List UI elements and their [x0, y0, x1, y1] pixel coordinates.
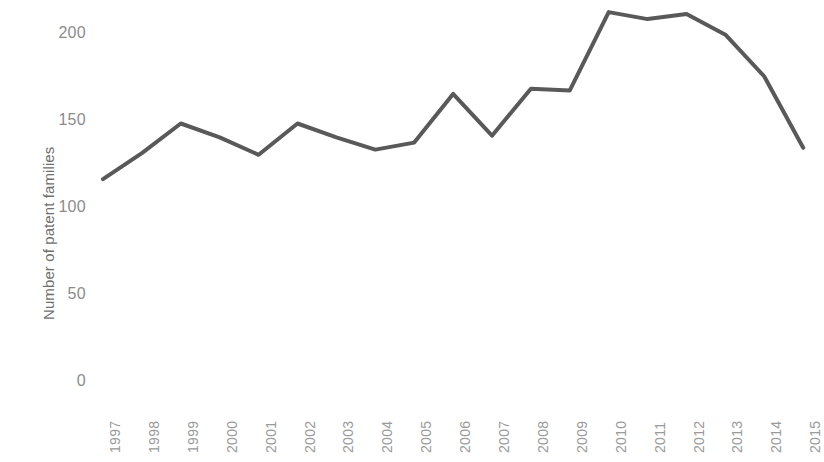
x-tick-label: 2012	[692, 421, 706, 453]
x-tick-label: 2003	[341, 421, 355, 453]
x-tick-label: 2006	[458, 421, 472, 453]
x-tick-label: 1997	[108, 421, 122, 453]
x-tick-label: 2011	[653, 422, 667, 453]
x-tick-label: 2010	[614, 421, 628, 453]
x-tick-label: 2008	[536, 421, 550, 453]
x-tick-label: 2009	[575, 421, 589, 453]
x-tick-label: 2004	[380, 421, 394, 453]
x-tick-label: 2000	[225, 421, 239, 453]
plot-area	[0, 0, 824, 462]
x-tick-label: 2007	[497, 421, 511, 453]
data-series-line	[103, 12, 803, 179]
x-tick-label: 2015	[808, 421, 822, 453]
x-tick-label: 1998	[147, 421, 161, 453]
x-tick-label: 2001	[264, 421, 278, 453]
x-tick-label: 2014	[769, 421, 783, 453]
x-tick-label: 2005	[419, 421, 433, 453]
x-tick-label: 2013	[730, 421, 744, 453]
line-chart: Number of patent families 050100150200 1…	[0, 0, 824, 462]
x-tick-label: 2002	[303, 421, 317, 453]
x-tick-label: 1999	[186, 421, 200, 453]
